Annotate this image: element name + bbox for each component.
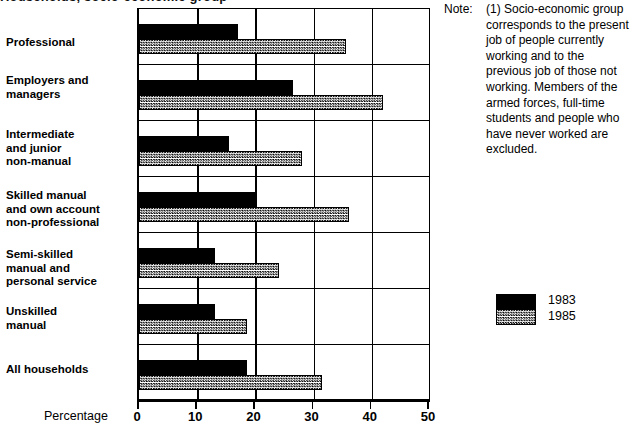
gridline — [255, 8, 256, 400]
bar-1983 — [139, 136, 229, 151]
category-label-column: ProfessionalEmployers and managersInterm… — [0, 8, 136, 400]
row-separator — [139, 232, 429, 233]
plot-area — [137, 8, 430, 400]
x-axis-tick-label: 40 — [363, 409, 377, 424]
row-separator — [139, 344, 429, 345]
right-panel: Note: (1) Socio-economic group correspon… — [444, 2, 630, 342]
bar-1985 — [139, 375, 322, 390]
row-separator — [139, 288, 429, 289]
legend-swatch — [496, 309, 536, 325]
bar-1985 — [139, 207, 349, 222]
legend-label: 1985 — [548, 309, 576, 323]
row-separator — [139, 176, 429, 177]
gridline — [372, 8, 373, 400]
legend-swatch — [496, 294, 536, 310]
category-label: Intermediate and junior non-manual — [6, 128, 74, 169]
legend-label: 1983 — [548, 293, 576, 307]
x-axis-tick-label: 20 — [246, 409, 260, 424]
bar-1983 — [139, 360, 247, 375]
bar-1985 — [139, 95, 383, 110]
category-label: Employers and managers — [6, 74, 88, 101]
bar-1985 — [139, 39, 346, 54]
x-axis-tick-label: 10 — [188, 409, 202, 424]
bar-1985 — [139, 151, 302, 166]
x-axis-title: Percentage — [44, 409, 108, 423]
x-axis-tick — [370, 402, 372, 409]
category-label: Unskilled manual — [6, 305, 57, 332]
bar-1983 — [139, 24, 238, 39]
x-axis-tick-label: 50 — [421, 409, 435, 424]
bar-1983 — [139, 248, 215, 263]
x-axis-tick-label: 0 — [133, 409, 140, 424]
x-axis-tick — [253, 402, 255, 409]
bar-chart: ProfessionalEmployers and managersInterm… — [0, 8, 436, 408]
bar-1983 — [139, 304, 215, 319]
note-text: (1) Socio-economic group corresponds to … — [486, 2, 630, 158]
category-label: Semi-skilled manual and personal service — [6, 248, 97, 289]
category-label: Skilled manual and own account non-profe… — [6, 189, 100, 230]
x-axis-tick-label: 30 — [304, 409, 318, 424]
x-axis — [137, 400, 430, 408]
category-label: Professional — [6, 36, 75, 50]
x-axis-tick — [427, 402, 429, 409]
bar-1983 — [139, 192, 255, 207]
gridline — [314, 8, 315, 400]
bar-1985 — [139, 319, 247, 334]
x-axis-tick — [195, 402, 197, 409]
page-title: Households, socio-economic group — [0, 0, 227, 4]
category-label: All households — [6, 363, 88, 377]
note-label: Note: — [444, 2, 473, 18]
x-axis-tick — [312, 402, 314, 409]
row-separator — [139, 120, 429, 121]
bar-1983 — [139, 80, 293, 95]
row-separator — [139, 64, 429, 65]
bar-1985 — [139, 263, 279, 278]
x-axis-tick — [137, 402, 139, 409]
row-separator — [139, 8, 429, 9]
